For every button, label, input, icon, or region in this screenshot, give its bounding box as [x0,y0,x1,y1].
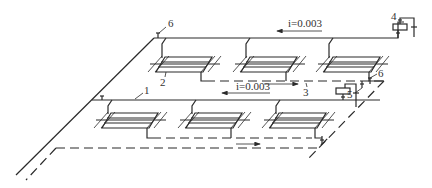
slope-annotation-lower: i=0.003 [222,80,271,93]
radiator-upper-2 [233,56,306,72]
leader-1 [135,93,143,99]
slope-label-upper: i=0.003 [288,17,323,29]
lower-supply-pipe [92,100,380,114]
label-6-upper: 6 [168,17,174,29]
valve-6-lower [360,78,372,88]
label-1: 1 [144,84,150,96]
air-collector-4 [393,18,417,38]
slope-annotation-upper: i=0.003 [277,17,323,31]
label-2: 2 [160,76,166,88]
label-5: 5 [347,88,353,100]
label-3: 3 [303,86,309,98]
label-4: 4 [391,10,397,22]
heating-system-diagram: i=0.003 [0,0,432,188]
leader-6-lower [370,74,377,78]
radiator-lower-3 [262,112,335,128]
valve-6-upper [156,33,160,38]
upper-supply-pipe [16,22,404,175]
label-6-lower: 6 [378,67,384,79]
radiator-lower-1 [94,112,167,128]
slope-label-lower: i=0.003 [236,80,271,92]
lower-return-pipe [26,128,330,180]
radiator-upper-1 [148,56,221,72]
radiator-lower-2 [178,112,251,128]
leader-6-upper [159,27,166,33]
